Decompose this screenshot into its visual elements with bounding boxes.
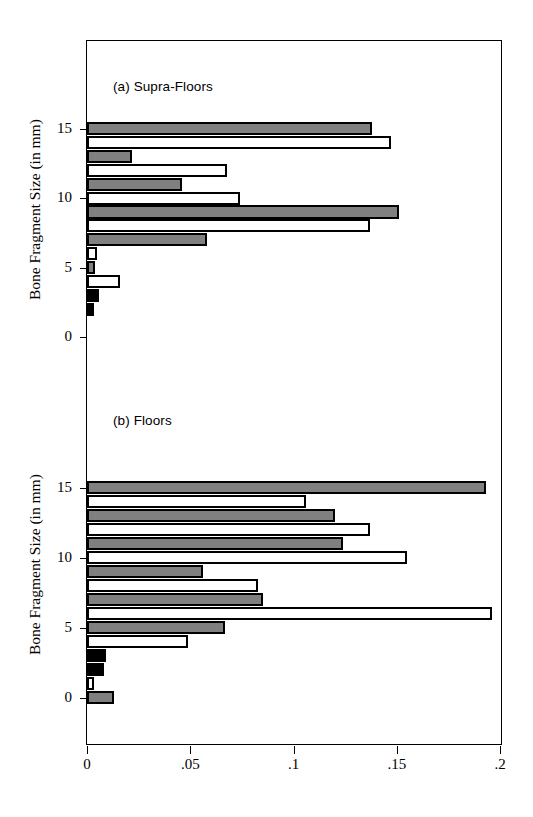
bar-panel-b-size-8	[87, 579, 258, 592]
bar-panel-a-size-10	[87, 192, 240, 205]
x-tick-2	[294, 746, 295, 754]
bar-panel-a-size-6	[87, 247, 97, 260]
bar-panel-b-size-9	[87, 565, 203, 578]
bar-panel-a-size-7	[87, 233, 207, 246]
panel-a-title: (a) Supra-Floors	[113, 79, 213, 94]
bar-panel-b-size-12	[87, 523, 370, 536]
y-tick-label-panel-a-10: 10	[32, 190, 72, 205]
x-tick-label-3: .15	[377, 757, 417, 772]
panel-b-title: (b) Floors	[113, 413, 172, 428]
y-tick-panel-b-10	[80, 558, 87, 559]
bar-panel-a-size-11	[87, 178, 182, 191]
bar-panel-b-size-0	[87, 691, 114, 704]
bar-panel-a-size-5	[87, 261, 95, 274]
x-tick-label-2: .1	[274, 757, 314, 772]
x-tick-3	[397, 746, 398, 754]
x-tick-1	[190, 746, 191, 754]
y-tick-label-panel-b-10: 10	[32, 550, 72, 565]
plot-frame: (a) Supra-Floors 151050 (b) Floors 15105…	[86, 40, 502, 745]
y-tick-label-panel-a-0: 0	[32, 329, 72, 344]
y-tick-panel-a-10	[80, 198, 87, 199]
x-tick-label-4: .2	[480, 757, 520, 772]
x-tick-4	[500, 746, 501, 754]
bar-panel-b-size-1	[87, 677, 94, 690]
y-tick-panel-a-0	[80, 337, 87, 338]
bar-panel-b-size-2	[87, 663, 104, 676]
y-tick-panel-a-5	[80, 268, 87, 269]
y-tick-panel-b-0	[80, 698, 87, 699]
y-tick-panel-a-15	[80, 129, 87, 130]
bar-panel-a-size-15	[87, 122, 372, 135]
bar-panel-b-size-6	[87, 607, 492, 620]
bar-panel-a-size-9	[87, 205, 399, 218]
panel-supra-floors: (a) Supra-Floors 151050	[87, 41, 501, 366]
x-tick-0	[87, 746, 88, 754]
y-tick-label-panel-b-5: 5	[32, 620, 72, 635]
bar-panel-b-size-5	[87, 621, 225, 634]
bar-panel-a-size-14	[87, 136, 391, 149]
bar-panel-b-size-13	[87, 509, 335, 522]
bar-panel-b-size-10	[87, 551, 407, 564]
y-tick-panel-b-5	[80, 628, 87, 629]
bar-panel-b-size-4	[87, 635, 188, 648]
x-tick-label-1: .05	[170, 757, 210, 772]
bar-panel-a-size-4	[87, 275, 120, 288]
y-tick-label-panel-a-15: 15	[32, 121, 72, 136]
panel-floors: (b) Floors 151050	[87, 366, 501, 746]
y-tick-label-panel-a-5: 5	[32, 260, 72, 275]
bar-panel-a-size-2	[87, 303, 94, 316]
bar-panel-b-size-7	[87, 593, 263, 606]
bar-panel-b-size-3	[87, 649, 106, 662]
y-tick-label-panel-b-15: 15	[32, 480, 72, 495]
y-tick-panel-b-15	[80, 488, 87, 489]
bar-panel-a-size-3	[87, 289, 99, 302]
bar-panel-a-size-13	[87, 150, 132, 163]
x-tick-label-0: 0	[67, 757, 107, 772]
bar-panel-b-size-11	[87, 537, 343, 550]
bar-panel-a-size-12	[87, 164, 227, 177]
bar-panel-a-size-8	[87, 219, 370, 232]
bar-panel-b-size-15	[87, 481, 486, 494]
figure-canvas: Bone Fragment Size (in mm) Bone Fragment…	[0, 0, 533, 817]
bar-panel-b-size-14	[87, 495, 306, 508]
y-tick-label-panel-b-0: 0	[32, 690, 72, 705]
